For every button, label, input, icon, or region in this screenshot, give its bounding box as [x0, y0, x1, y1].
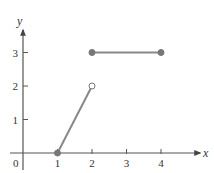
x-tick-label: 4: [158, 157, 164, 169]
series: [55, 50, 165, 157]
y-axis-label: y: [16, 14, 23, 28]
line-segment: [58, 86, 93, 153]
x-axis-label: x: [202, 146, 209, 160]
x-tick-label: 1: [55, 157, 61, 169]
y-tick-label: 2: [13, 80, 19, 92]
ticks: 1234123: [13, 47, 165, 170]
origin-label: 0: [13, 157, 19, 169]
y-tick-label: 1: [13, 114, 19, 126]
closed-point-marker: [158, 50, 164, 56]
piecewise-function-graph: 1234123 x y 0: [0, 0, 214, 173]
closed-point-marker: [55, 150, 61, 156]
x-tick-label: 2: [89, 157, 95, 169]
open-point-marker: [89, 83, 95, 89]
axes: [10, 30, 200, 170]
y-tick-label: 3: [13, 47, 19, 59]
closed-point-marker: [89, 50, 95, 56]
x-tick-label: 3: [124, 157, 130, 169]
